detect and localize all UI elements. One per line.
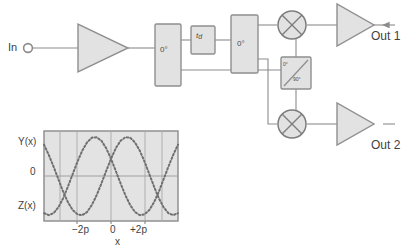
chart-y-label-top: Y(x) [18,136,36,147]
chart-x-tick-minus2p: −2p [72,224,89,235]
power-splitter-1 [155,24,181,86]
mixer-2-icon [278,110,306,138]
amplifier-out1-icon [337,4,374,46]
amplifier-input-icon [78,24,128,72]
delay-block [191,26,215,54]
input-terminal-icon [24,44,33,53]
chart-y-label-zero: 0 [30,166,36,177]
quadrature-hybrid-label-bottom: 90° [293,76,301,82]
inset-chart [44,131,178,224]
delay-block-label: td [196,31,202,40]
amplifier-out2-icon [337,103,374,145]
output-1-label: Out 1 [371,30,400,42]
output-arrows [360,25,370,124]
chart-x-tick-plus2p: +2p [130,224,147,235]
chart-y-label-bottom: Z(x) [18,200,36,211]
chart-x-axis-label: x [115,236,120,247]
power-splitter-2-label: 0° [237,39,245,48]
chart-x-tick-zero: 0 [110,224,116,235]
input-label: In [8,42,17,53]
mixer-1-icon [278,11,306,39]
output-2-label: Out 2 [371,139,400,151]
quadrature-hybrid-label-top: 0° [283,61,288,67]
diagram-svg [0,0,416,251]
diagram-canvas: In Out 1 Out 2 0° td 0° 0° 90° Y(x) 0 Z(… [0,0,416,251]
power-splitter-1-label: 0° [160,45,168,54]
